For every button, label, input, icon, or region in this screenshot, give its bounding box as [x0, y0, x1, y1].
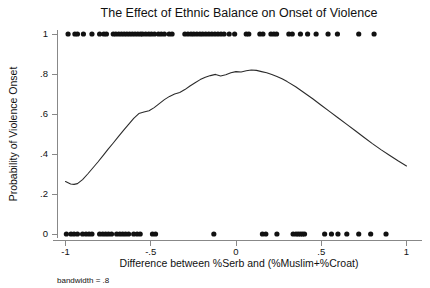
y-axis-ticks: 0.2.4.6.81 — [40, 28, 57, 239]
y-tick-label: .6 — [40, 108, 48, 119]
data-point — [64, 231, 69, 236]
data-point — [138, 231, 143, 236]
data-point — [89, 31, 94, 36]
data-point — [260, 31, 265, 36]
data-point — [344, 231, 349, 236]
lowess-curve — [66, 70, 407, 184]
y-tick-label: .8 — [40, 68, 48, 79]
data-point — [356, 231, 361, 236]
data-point — [153, 231, 158, 236]
data-point — [65, 31, 70, 36]
data-point — [274, 31, 279, 36]
y-axis-title: Probability of Violence Onset — [7, 67, 19, 202]
data-point — [227, 31, 232, 36]
data-point — [383, 231, 388, 236]
figure-container: The Effect of Ethnic Balance on Onset of… — [0, 0, 430, 288]
y-tick-label: .2 — [40, 188, 48, 199]
data-point — [162, 31, 167, 36]
data-point — [274, 231, 279, 236]
y-tick-label: 0 — [43, 228, 48, 239]
data-point — [221, 31, 226, 36]
data-point — [368, 231, 373, 236]
x-axis-title: Difference between %Serb and (%Muslim+%C… — [120, 257, 359, 269]
y-tick-label: .4 — [40, 148, 48, 159]
x-tick-label: -.5 — [145, 246, 156, 257]
chart-title: The Effect of Ethnic Balance on Onset of… — [101, 6, 378, 20]
data-point — [298, 31, 303, 36]
data-point — [89, 231, 94, 236]
y-tick-label: 1 — [43, 28, 48, 39]
scatter-points-onset-1 — [65, 31, 376, 36]
x-tick-label: 0 — [233, 246, 238, 257]
x-tick-label: -1 — [61, 246, 69, 257]
data-point — [356, 31, 361, 36]
data-point — [211, 231, 216, 236]
data-point — [335, 231, 340, 236]
data-point — [126, 231, 131, 236]
data-point — [325, 31, 330, 36]
data-point — [75, 231, 80, 236]
data-point — [232, 31, 237, 36]
data-point — [371, 31, 376, 36]
data-point — [263, 231, 268, 236]
lowess-plot: The Effect of Ethnic Balance on Onset of… — [0, 0, 430, 288]
scatter-points-onset-0 — [64, 231, 389, 236]
data-point — [322, 231, 327, 236]
data-point — [75, 31, 80, 36]
x-axis-ticks: -1-.50.51 — [61, 241, 409, 258]
data-point — [290, 31, 295, 36]
bandwidth-note: bandwidth = .8 — [57, 276, 110, 285]
data-point — [335, 31, 340, 36]
data-point — [169, 31, 174, 36]
data-point — [109, 231, 114, 236]
data-point — [104, 31, 109, 36]
axis-spines — [53, 30, 422, 241]
data-point — [81, 31, 86, 36]
data-point — [302, 231, 307, 236]
x-tick-label: 1 — [404, 246, 409, 257]
data-point — [329, 231, 334, 236]
data-point — [305, 31, 310, 36]
data-point — [246, 31, 251, 36]
x-tick-label: .5 — [317, 246, 325, 257]
data-point — [314, 31, 319, 36]
